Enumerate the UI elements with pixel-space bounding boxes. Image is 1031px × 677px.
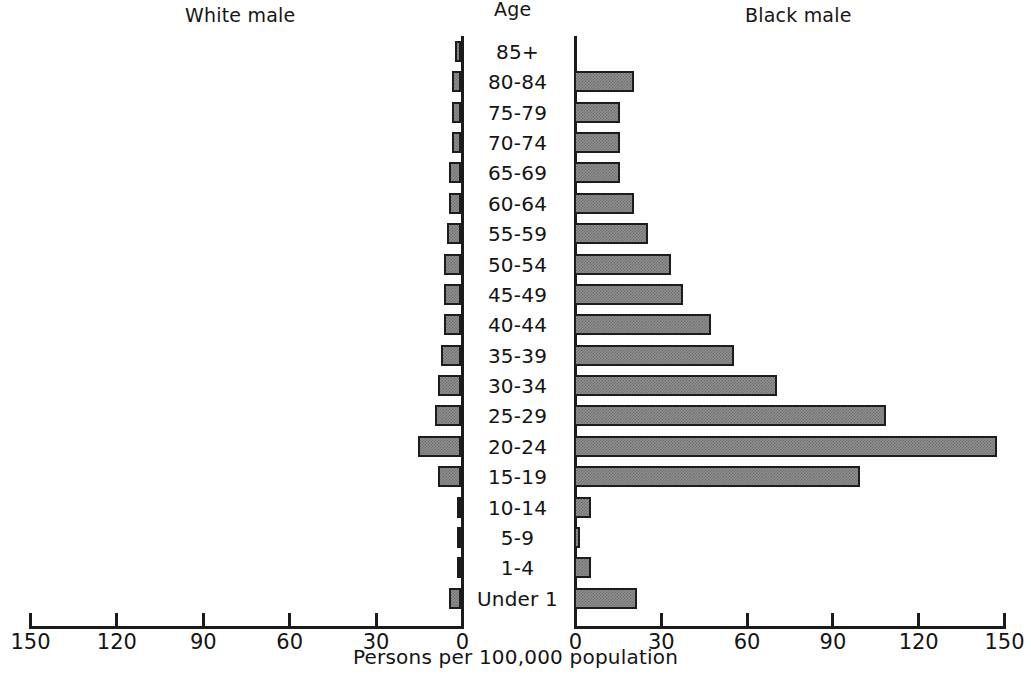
left-panel-title: White male	[185, 4, 295, 26]
bar-white-male-30-34	[438, 375, 461, 396]
age-label-25-29: 25-29	[461, 400, 574, 432]
right-bar-row	[574, 552, 1003, 584]
x-axis-label: Persons per 100,000 population	[0, 645, 1031, 669]
right-panel-title: Black male	[745, 4, 852, 26]
bar-white-male-70-74	[452, 132, 461, 153]
bar-black-male-40-44	[574, 314, 711, 335]
left-bar-row	[29, 522, 461, 554]
bar-black-male-70-74	[574, 132, 620, 153]
right-x-axis: 0306090120150	[574, 613, 1006, 629]
left-bar-row	[29, 279, 461, 311]
bar-black-male-25-29	[574, 405, 886, 426]
bar-white-male-20-24	[418, 436, 461, 457]
bar-black-male-75-79	[574, 102, 620, 123]
bar-white-male-15-19	[438, 466, 461, 487]
age-label-80-84: 80-84	[461, 66, 574, 98]
age-label-15-19: 15-19	[461, 461, 574, 493]
right-bar-row	[574, 97, 1003, 129]
right-bar-row	[574, 400, 1003, 432]
bar-black-male-1-4	[574, 557, 591, 578]
left-plot-area	[29, 36, 461, 613]
center-axis-title: Age	[494, 0, 531, 20]
right-bar-row	[574, 461, 1003, 493]
age-label-50-54: 50-54	[461, 249, 574, 281]
left-bar-row	[29, 583, 461, 615]
bar-white-male-75-79	[452, 102, 461, 123]
left-bar-row	[29, 461, 461, 493]
bar-black-male-20-24	[574, 436, 997, 457]
bar-black-male-80-84	[574, 71, 634, 92]
age-label-45-49: 45-49	[461, 279, 574, 311]
left-axis-tick	[288, 613, 291, 629]
left-bar-row	[29, 370, 461, 402]
left-bar-row	[29, 188, 461, 220]
left-bar-row	[29, 340, 461, 372]
left-bar-row	[29, 492, 461, 524]
right-bar-row	[574, 583, 1003, 615]
right-bar-row	[574, 279, 1003, 311]
left-bar-row	[29, 309, 461, 341]
bar-black-male-10-14	[574, 497, 591, 518]
left-bar-row	[29, 127, 461, 159]
bar-white-male-35-39	[441, 345, 461, 366]
right-axis-tick	[917, 613, 920, 629]
age-label-85-: 85+	[461, 36, 574, 68]
right-axis-tick	[660, 613, 663, 629]
left-x-axis: 1501209060300	[29, 613, 464, 629]
age-label-55-59: 55-59	[461, 218, 574, 250]
age-label-5-9: 5-9	[461, 522, 574, 554]
bar-white-male-25-29	[435, 405, 461, 426]
age-label-under-1: Under 1	[461, 583, 574, 615]
left-bar-row	[29, 400, 461, 432]
right-bar-row	[574, 249, 1003, 281]
population-pyramid-chart: White male Age Black male 85+80-8475-797…	[0, 0, 1031, 677]
left-axis-line	[29, 626, 464, 629]
right-axis-tick	[1003, 613, 1006, 629]
right-bar-row	[574, 309, 1003, 341]
left-bar-row	[29, 218, 461, 250]
right-bar-row	[574, 157, 1003, 189]
right-axis-tick	[746, 613, 749, 629]
bar-black-male-50-54	[574, 254, 671, 275]
age-label-1-4: 1-4	[461, 552, 574, 584]
right-axis-tick	[831, 613, 834, 629]
bar-white-male-65-69	[449, 162, 461, 183]
age-label-35-39: 35-39	[461, 340, 574, 372]
left-bar-row	[29, 157, 461, 189]
left-axis-tick	[115, 613, 118, 629]
right-bar-row	[574, 66, 1003, 98]
right-bar-row	[574, 431, 1003, 463]
bar-black-male-60-64	[574, 193, 634, 214]
right-bar-row	[574, 370, 1003, 402]
left-bar-row	[29, 66, 461, 98]
right-axis-tick	[574, 613, 577, 629]
right-axis-line	[574, 626, 1006, 629]
bar-white-male-40-44	[444, 314, 461, 335]
age-label-60-64: 60-64	[461, 188, 574, 220]
bar-white-male-60-64	[449, 193, 461, 214]
bar-white-male-80-84	[452, 71, 461, 92]
left-axis-tick	[375, 613, 378, 629]
left-axis-tick	[29, 613, 32, 629]
bar-white-male-50-54	[444, 254, 461, 275]
right-bar-row	[574, 127, 1003, 159]
bar-black-male-35-39	[574, 345, 734, 366]
bar-black-male-45-49	[574, 284, 683, 305]
bar-black-male-15-19	[574, 466, 860, 487]
right-bar-row	[574, 340, 1003, 372]
age-label-20-24: 20-24	[461, 431, 574, 463]
left-bar-row	[29, 249, 461, 281]
age-label-65-69: 65-69	[461, 157, 574, 189]
age-label-70-74: 70-74	[461, 127, 574, 159]
bar-black-male-65-69	[574, 162, 620, 183]
age-label-75-79: 75-79	[461, 97, 574, 129]
left-bar-row	[29, 36, 461, 68]
right-bar-row	[574, 492, 1003, 524]
bar-black-male-30-34	[574, 375, 777, 396]
bar-black-male-55-59	[574, 223, 648, 244]
age-label-10-14: 10-14	[461, 492, 574, 524]
bar-white-male-45-49	[444, 284, 461, 305]
right-bar-row	[574, 36, 1003, 68]
left-bar-row	[29, 431, 461, 463]
age-label-40-44: 40-44	[461, 309, 574, 341]
